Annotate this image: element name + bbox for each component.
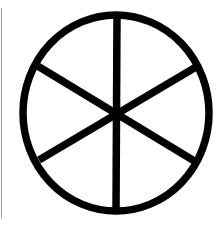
wheel-symbol-icon	[0, 0, 219, 225]
